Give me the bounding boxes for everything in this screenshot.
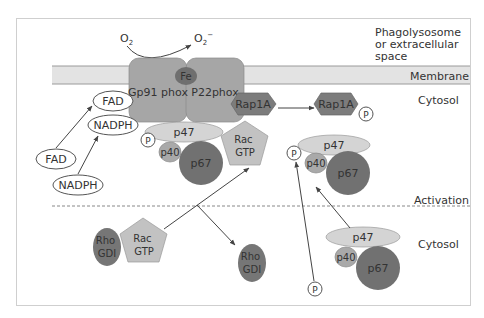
svg-text:p47: p47: [324, 139, 345, 152]
svg-text:P: P: [363, 110, 369, 120]
gp91-label: Gp91 phox: [128, 86, 188, 99]
nadph-oxidase-diagram: Phagolysosome or extracellular space Mem…: [0, 0, 484, 318]
svg-text:FAD: FAD: [102, 95, 123, 108]
cytosol-top-label: Cytosol: [418, 94, 459, 107]
svg-text:NADPH: NADPH: [93, 119, 132, 132]
svg-text:Fe: Fe: [180, 71, 191, 82]
rho-gdi-free: [238, 244, 266, 282]
activation-label: Activation: [414, 194, 469, 207]
svg-text:p47: p47: [353, 231, 374, 244]
svg-text:P: P: [312, 285, 318, 295]
svg-text:p40: p40: [336, 252, 355, 263]
svg-text:p40: p40: [306, 158, 325, 169]
svg-text:p67: p67: [338, 167, 359, 180]
membrane-band: [52, 66, 470, 84]
svg-text:Rap1A: Rap1A: [318, 98, 354, 111]
svg-text:FAD: FAD: [45, 153, 66, 166]
p22-label: P22phox: [191, 86, 239, 99]
svg-text:p67: p67: [368, 262, 389, 275]
svg-text:p67: p67: [191, 157, 212, 170]
svg-text:NADPH: NADPH: [58, 179, 97, 192]
svg-text:Rap1A: Rap1A: [235, 98, 271, 111]
rho-gdi-bound: [93, 228, 121, 266]
svg-text:p40: p40: [160, 147, 179, 158]
svg-text:P: P: [145, 136, 151, 146]
cytosol-bottom-label: Cytosol: [418, 238, 459, 251]
membrane-label: Membrane: [410, 70, 469, 83]
svg-text:p47: p47: [174, 126, 195, 139]
svg-text:P: P: [291, 149, 297, 159]
